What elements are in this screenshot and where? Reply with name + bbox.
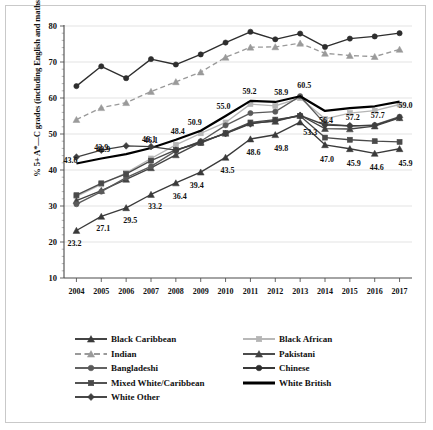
- x-axis-tick-label: 2011: [243, 287, 259, 296]
- y-axis-tick-label: 20: [49, 237, 58, 247]
- data-point-label: 53.3: [303, 128, 317, 137]
- legend-marker-triangle-icon: [242, 348, 276, 360]
- data-point-label: 42.9: [94, 143, 108, 152]
- legend-marker-diamond-icon: [74, 391, 108, 403]
- data-point-label: 29.5: [123, 216, 137, 225]
- data-point-label: 45.9: [399, 159, 413, 168]
- series-indian: [73, 40, 403, 122]
- data-point-label: 58.9: [274, 88, 288, 97]
- legend-column-right: Black AfricanPakistaniChineseWhite Briti…: [242, 332, 332, 390]
- data-point-label: 33.2: [148, 202, 162, 211]
- series-black-african: [74, 96, 402, 199]
- legend-column-left: Black CaribbeanIndianBangladeshiMixed Wh…: [74, 332, 205, 405]
- x-axis-tick-label: 2004: [68, 287, 84, 296]
- data-point-label: 57.7: [371, 111, 385, 120]
- y-axis-tick-label: 50: [49, 129, 58, 139]
- legend-marker-circle-icon: [74, 362, 108, 374]
- x-axis-tick-label: 2010: [218, 287, 234, 296]
- legend-item-pakistani[interactable]: Pakistani: [242, 347, 332, 362]
- legend-marker-none-icon: [242, 377, 276, 389]
- x-axis-tick-label: 2005: [93, 287, 109, 296]
- x-axis-tick-label: 2012: [267, 287, 283, 296]
- legend-marker-triangle-icon: [74, 333, 108, 345]
- data-point-label: 60.5: [297, 81, 311, 90]
- legend-item-mixed-white-caribbean[interactable]: Mixed White/Caribbean: [74, 376, 205, 391]
- data-point-label: 56.4: [319, 116, 333, 125]
- legend-item-chinese[interactable]: Chinese: [242, 361, 332, 376]
- data-point-label: 43.5: [221, 166, 235, 175]
- legend-item-label: Indian: [111, 349, 137, 359]
- x-axis-tick-label: 2006: [118, 287, 134, 296]
- legend-item-label: Pakistani: [279, 349, 315, 359]
- legend-item-label: Black Caribbean: [111, 334, 176, 344]
- data-point-label: 48.4: [171, 127, 185, 136]
- data-point-label: 50.9: [188, 118, 202, 127]
- data-point-label: 55.0: [217, 102, 231, 111]
- legend-item-black-african[interactable]: Black African: [242, 332, 332, 347]
- y-axis-tick-label: 40: [49, 165, 58, 175]
- data-point-label: 39.4: [190, 181, 204, 190]
- x-axis-tick-label: 2016: [367, 287, 383, 296]
- data-point-label: 47.0: [320, 155, 334, 164]
- data-point-label: 44.6: [370, 163, 384, 172]
- legend-item-label: White British: [279, 378, 331, 388]
- data-point-label: 45.9: [347, 159, 361, 168]
- legend-item-white-british[interactable]: White British: [242, 376, 332, 391]
- chart-legend: Black CaribbeanIndianBangladeshiMixed Wh…: [64, 332, 394, 418]
- line-chart-svg: 1020304050607080200420052006200720082009…: [42, 20, 416, 312]
- legend-item-label: Black African: [279, 334, 332, 344]
- data-point-label: 36.4: [173, 192, 187, 201]
- legend-marker-triangle-icon: [74, 348, 108, 360]
- data-point-label: 46.1: [144, 136, 158, 145]
- legend-item-bangladeshi[interactable]: Bangladeshi: [74, 361, 205, 376]
- chart-frame: % 5+ A*—C grades (including English and …: [5, 5, 426, 423]
- x-axis-tick-label: 2017: [392, 287, 408, 296]
- x-axis-tick-label: 2008: [168, 287, 184, 296]
- y-axis-tick-label: 80: [49, 21, 58, 31]
- legend-marker-circle-icon: [242, 362, 276, 374]
- legend-item-indian[interactable]: Indian: [74, 347, 205, 362]
- data-point-label: 27.1: [96, 224, 110, 233]
- y-axis-tick-label: 60: [49, 93, 58, 103]
- series-bangladeshi: [74, 94, 402, 207]
- x-axis-tick-label: 2015: [342, 287, 358, 296]
- series-chinese: [74, 29, 402, 89]
- legend-item-label: Chinese: [279, 363, 310, 373]
- data-point-label: 59.0: [399, 101, 413, 110]
- plot-area: 1020304050607080200420052006200720082009…: [42, 20, 416, 312]
- y-axis-title: % 5+ A*—C grades (including English and …: [32, 0, 42, 202]
- data-point-label: 23.2: [67, 239, 81, 248]
- data-point-label: 48.6: [246, 148, 260, 157]
- x-axis-tick-label: 2013: [292, 287, 308, 296]
- legend-item-label: Bangladeshi: [111, 363, 158, 373]
- chart-page: % 5+ A*—C grades (including English and …: [0, 0, 433, 430]
- legend-marker-square-icon: [74, 377, 108, 389]
- legend-marker-square-icon: [242, 333, 276, 345]
- legend-item-label: White Other: [111, 392, 160, 402]
- legend-item-white-other[interactable]: White Other: [74, 390, 205, 405]
- data-point-label: 57.2: [346, 113, 360, 122]
- legend-item-label: Mixed White/Caribbean: [111, 378, 205, 388]
- x-axis-tick-label: 2007: [143, 287, 159, 296]
- data-point-label: 43.6: [63, 156, 77, 165]
- legend-item-black-caribbean[interactable]: Black Caribbean: [74, 332, 205, 347]
- y-axis-tick-label: 10: [49, 273, 58, 283]
- y-axis-tick-label: 70: [49, 57, 58, 67]
- x-axis-tick-label: 2014: [317, 287, 333, 296]
- data-point-label: 59.2: [242, 87, 256, 96]
- y-axis-tick-label: 30: [49, 201, 58, 211]
- x-axis-tick-label: 2009: [193, 287, 209, 296]
- data-point-label: 49.8: [274, 144, 288, 153]
